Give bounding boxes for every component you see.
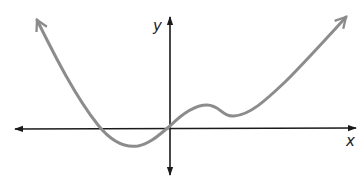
function-curve [37, 17, 346, 146]
function-graph: y x [0, 0, 364, 180]
graph-svg: y x [0, 0, 364, 180]
y-axis-label: y [152, 17, 163, 35]
x-axis [15, 128, 356, 129]
x-axis-label: x [345, 132, 355, 150]
